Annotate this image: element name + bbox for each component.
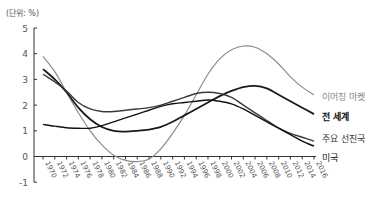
- legend-label-world: 전 세계: [322, 110, 349, 123]
- svg-text:2: 2: [22, 101, 28, 111]
- svg-text:5: 5: [22, 24, 28, 34]
- legend-label-us: 미국: [322, 151, 338, 164]
- series-lines: [43, 46, 314, 162]
- svg-text:3: 3: [22, 75, 28, 85]
- svg-text:0: 0: [22, 152, 28, 162]
- axes: 543210-119701972197419761978198019821984…: [19, 24, 329, 188]
- svg-text:4: 4: [22, 49, 28, 59]
- series-line-3: [43, 100, 314, 146]
- legend-label-developed: 주요 선진국: [322, 132, 365, 145]
- series-line-2: [43, 74, 314, 141]
- legend-label-emerging: 이머징 마켓: [322, 90, 365, 103]
- svg-text:1: 1: [22, 126, 28, 136]
- svg-text:-1: -1: [19, 178, 28, 188]
